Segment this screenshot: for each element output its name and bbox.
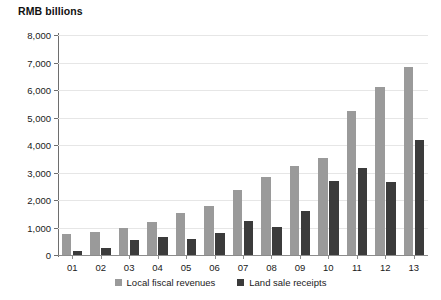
bar-group — [86, 35, 114, 255]
bar — [204, 206, 214, 255]
x-tick-mark — [414, 255, 415, 259]
bar-group — [371, 35, 399, 255]
x-tick-label: 02 — [95, 262, 106, 273]
y-tick-mark — [54, 255, 58, 256]
x-tick-mark — [72, 255, 73, 259]
x-tick-label: 09 — [295, 262, 306, 273]
x-tick-label: 01 — [67, 262, 78, 273]
y-tick-label: 2,000 — [27, 195, 51, 206]
y-tick-label: 8,000 — [27, 30, 51, 41]
x-tick-mark — [271, 255, 272, 259]
bar — [215, 233, 225, 255]
bar — [119, 228, 129, 255]
legend-item: Local fiscal revenues — [115, 277, 216, 288]
x-tick-label: 05 — [181, 262, 192, 273]
y-tick-label: 1,000 — [27, 222, 51, 233]
x-tick-mark — [101, 255, 102, 259]
x-tick-label: 08 — [266, 262, 277, 273]
legend-label: Local fiscal revenues — [127, 277, 216, 288]
x-tick-mark — [158, 255, 159, 259]
bar — [261, 177, 271, 255]
y-tick-label: 3,000 — [27, 167, 51, 178]
y-tick-label: 4,000 — [27, 140, 51, 151]
x-tick-mark — [243, 255, 244, 259]
bar — [301, 211, 311, 255]
legend-label: Land sale receipts — [249, 277, 326, 288]
bar — [62, 234, 72, 255]
x-tick-label: 04 — [152, 262, 163, 273]
x-tick-mark — [385, 255, 386, 259]
bar-group — [400, 35, 428, 255]
bar — [101, 248, 111, 255]
bar — [358, 168, 368, 255]
bar-group — [314, 35, 342, 255]
y-tick-label: 7,000 — [27, 57, 51, 68]
x-tick-mark — [186, 255, 187, 259]
bar — [158, 237, 168, 255]
x-tick-label: 13 — [408, 262, 419, 273]
bar-group — [58, 35, 86, 255]
x-tick-label: 10 — [323, 262, 334, 273]
bar-group — [257, 35, 285, 255]
x-tick-label: 03 — [124, 262, 135, 273]
chart-title: RMB billions — [18, 5, 83, 17]
y-tick-label: 5,000 — [27, 112, 51, 123]
x-tick-mark — [215, 255, 216, 259]
x-tick-mark — [328, 255, 329, 259]
x-tick-label: 07 — [238, 262, 249, 273]
bar-group — [115, 35, 143, 255]
bar-group — [229, 35, 257, 255]
bar — [90, 232, 100, 255]
bar-chart: RMB billions 8,0007,0006,0005,0004,0003,… — [0, 0, 441, 300]
x-tick-label: 12 — [380, 262, 391, 273]
bar — [176, 213, 186, 255]
bar — [187, 239, 197, 255]
bar — [386, 182, 396, 255]
legend-swatch-icon — [237, 279, 244, 286]
x-tick-mark — [129, 255, 130, 259]
chart-legend: Local fiscal revenuesLand sale receipts — [0, 277, 441, 288]
bar-group — [143, 35, 171, 255]
y-tick-label: 6,000 — [27, 85, 51, 96]
bar — [272, 227, 282, 255]
x-tick-mark — [300, 255, 301, 259]
legend-item: Land sale receipts — [237, 277, 326, 288]
bar — [244, 221, 254, 255]
bar — [130, 240, 140, 255]
bar-group — [200, 35, 228, 255]
legend-swatch-icon — [115, 279, 122, 286]
y-tick-label: 0 — [46, 250, 51, 261]
bar — [347, 111, 357, 255]
bar — [415, 140, 425, 256]
bar — [233, 190, 243, 255]
bar — [375, 87, 385, 255]
bar-group — [286, 35, 314, 255]
bar-group — [343, 35, 371, 255]
bar — [73, 251, 83, 255]
plot-area: 8,0007,0006,0005,0004,0003,0002,0001,000… — [58, 35, 428, 255]
bar — [404, 67, 414, 255]
x-tick-mark — [357, 255, 358, 259]
bar — [329, 181, 339, 255]
bar — [290, 166, 300, 255]
x-tick-label: 11 — [352, 262, 362, 273]
bar-group — [172, 35, 200, 255]
x-tick-label: 06 — [209, 262, 220, 273]
bar — [147, 222, 157, 255]
bar — [318, 158, 328, 255]
